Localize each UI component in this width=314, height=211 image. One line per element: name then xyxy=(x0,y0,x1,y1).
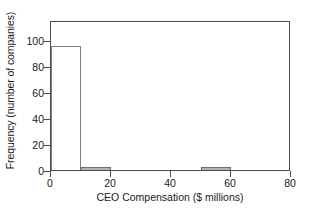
x-axis-label: CEO Compensation ($ millions) xyxy=(50,191,290,203)
x-axis-tick-label: 80 xyxy=(270,177,310,189)
y-axis-tick-label: 60 xyxy=(18,88,44,98)
histogram-bar xyxy=(201,167,231,170)
y-axis-tick-label: 100 xyxy=(18,36,44,46)
y-axis-tick-label: 40 xyxy=(18,114,44,124)
plot-area xyxy=(50,21,290,171)
y-axis-tick-label: 0 xyxy=(18,166,44,176)
histogram-bar xyxy=(81,167,111,170)
x-axis-tick-label: 20 xyxy=(90,177,130,189)
x-axis-tick-label: 40 xyxy=(150,177,190,189)
x-axis-tick-label: 60 xyxy=(210,177,250,189)
x-axis-tick-label: 0 xyxy=(30,177,70,189)
y-axis-label: Frequency (number of companies) xyxy=(2,5,18,176)
histogram-bar xyxy=(51,46,81,170)
y-axis-tick-label: 20 xyxy=(18,140,44,150)
histogram-figure: Frequency (number of companies) 02040608… xyxy=(0,0,314,211)
y-axis-tick-label: 80 xyxy=(18,62,44,72)
